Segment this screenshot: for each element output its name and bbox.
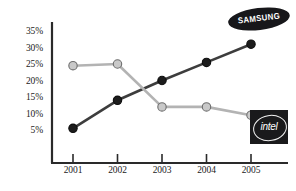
data-point-marker xyxy=(69,61,77,69)
data-point-marker xyxy=(69,124,77,132)
data-point-marker xyxy=(158,76,166,84)
x-tick-label: 2002 xyxy=(96,165,140,175)
data-point-marker xyxy=(202,58,210,66)
x-tick-label: 2005 xyxy=(229,165,273,175)
data-point-marker xyxy=(247,40,255,48)
data-point-marker xyxy=(202,103,210,111)
series-line xyxy=(73,44,251,128)
intel-logo-label: intel xyxy=(250,121,288,132)
data-point-marker xyxy=(113,60,121,68)
x-tick-label: 2003 xyxy=(140,165,184,175)
x-tick-label: 2004 xyxy=(185,165,229,175)
intel-logo: intel xyxy=(250,110,288,144)
x-tick-label: 2001 xyxy=(51,165,95,175)
x-axis-tick-labels: 2001 2002 2003 2004 2005 xyxy=(0,165,296,183)
series-lines xyxy=(73,44,251,128)
line-chart: 35% 30% 25% 20% 15% 10% 5% 2001 2002 200… xyxy=(0,0,296,191)
data-point-marker xyxy=(113,96,121,104)
x-axis-ticks xyxy=(73,154,251,163)
data-point-marker xyxy=(158,103,166,111)
